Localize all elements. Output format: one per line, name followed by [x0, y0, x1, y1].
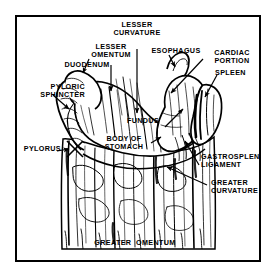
leader-duodenum: [83, 59, 89, 73]
figure-frame-border: LESSER CURVATURE LESSER OMENTUM ESOPHAGU…: [15, 15, 261, 262]
anatomy-artwork: [17, 17, 261, 262]
anatomy-figure: LESSER CURVATURE LESSER OMENTUM ESOPHAGU…: [0, 0, 276, 277]
